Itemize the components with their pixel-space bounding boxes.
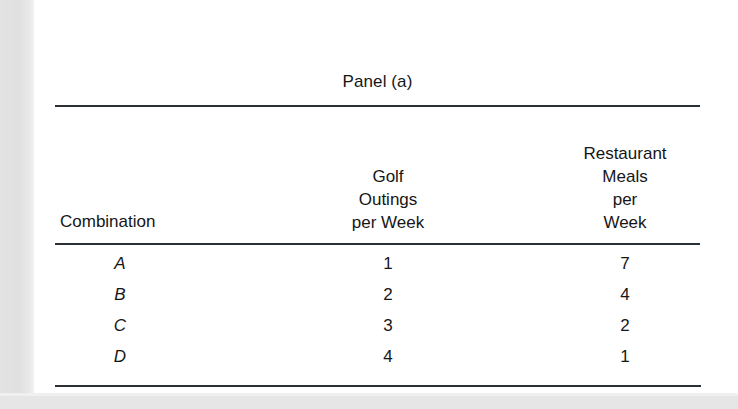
cell-combination: C (60, 310, 180, 341)
column-header-restaurant-line-1: Restaurant (550, 142, 700, 165)
table-row: C 3 2 (55, 310, 700, 341)
cell-combination: A (60, 248, 180, 279)
table-row: A 1 7 (55, 248, 700, 279)
column-header-restaurant-line-3: per (550, 188, 700, 211)
column-header-golf-outings: Golf Outings per Week (298, 165, 478, 234)
table-rule-middle (55, 243, 700, 245)
panel-title: Panel (a) (55, 72, 700, 92)
column-header-combination: Combination (60, 212, 240, 232)
column-header-golf-line-2: Outings (298, 188, 478, 211)
data-table: Panel (a) Combination Golf Outings per W… (55, 0, 700, 396)
table-body: A 1 7 B 2 4 C 3 2 D 4 1 (55, 248, 700, 372)
cell-restaurant-meals: 7 (550, 248, 700, 279)
table-header-row: Combination Golf Outings per Week Restau… (55, 110, 700, 240)
cell-golf-outings: 3 (298, 310, 478, 341)
cell-golf-outings: 2 (298, 279, 478, 310)
cell-restaurant-meals: 2 (550, 310, 700, 341)
table-row: D 4 1 (55, 341, 700, 372)
column-header-golf-line-1: Golf (298, 165, 478, 188)
table-row: B 2 4 (55, 279, 700, 310)
scan-bottom-margin (0, 396, 738, 409)
cell-golf-outings: 1 (298, 248, 478, 279)
cell-combination: D (60, 341, 180, 372)
column-header-restaurant-line-2: Meals (550, 165, 700, 188)
cell-combination: B (60, 279, 180, 310)
scan-left-margin (0, 0, 34, 409)
cell-golf-outings: 4 (298, 341, 478, 372)
cell-restaurant-meals: 4 (550, 279, 700, 310)
cell-restaurant-meals: 1 (550, 341, 700, 372)
table-rule-bottom (55, 385, 701, 387)
column-header-restaurant-meals: Restaurant Meals per Week (550, 142, 700, 234)
table-rule-top (55, 105, 700, 107)
column-header-restaurant-line-4: Week (550, 211, 700, 234)
column-header-golf-line-3: per Week (298, 211, 478, 234)
